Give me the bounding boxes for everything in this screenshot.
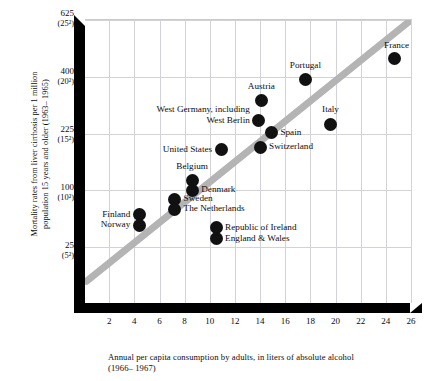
data-point[interactable] [210,232,223,245]
data-point-label: United States [84,144,212,154]
y-axis-bar [74,15,85,307]
y-tick-25-sub: (5²) [28,251,74,262]
y-tick-400-value: 400 [28,66,74,77]
y-tick-625-sub: (25²) [28,19,74,30]
y-tick-25-value: 25 [28,240,74,251]
data-point-label: Italy [322,104,339,114]
x-axis-title-line2: (1966– 1967) [108,363,156,373]
data-point-label: West Germany, includingWest Berlin [84,104,250,125]
data-point[interactable] [324,118,337,131]
data-point[interactable] [133,219,146,232]
y-tick-100: 100 (10²) [28,182,74,203]
y-tick-225-value: 225 [28,124,74,135]
x-tick-24: 24 [376,316,396,326]
x-tick-22: 22 [351,316,371,326]
x-tick-6: 6 [150,316,170,326]
data-point[interactable] [215,143,228,156]
data-point-label: Switzerland [269,141,313,151]
y-tick-225-sub: (15²) [28,135,74,146]
data-point[interactable] [299,73,312,86]
data-point-label: Republic of Ireland [225,222,296,232]
data-point-label: Austria [248,81,275,91]
x-tick-14: 14 [250,316,270,326]
x-tick-2: 2 [99,316,119,326]
y-tick-625: 625 (25²) [28,8,74,29]
x-tick-18: 18 [300,316,320,326]
y-axis-title-line1: Mortality rates from liver cirrhosis per… [30,71,39,236]
data-point[interactable] [252,114,265,127]
x-tick-26: 26 [401,316,421,326]
data-point-label: France [384,40,409,50]
x-axis-bar [74,303,422,313]
x-tick-16: 16 [275,316,295,326]
data-point-label: England & Wales [225,233,289,243]
trend-band-svg [84,20,411,304]
data-point[interactable] [265,126,278,139]
data-point[interactable] [168,203,181,216]
y-tick-100-sub: (10²) [28,193,74,204]
x-tick-10: 10 [200,316,220,326]
data-point-label: Spain [280,127,301,137]
data-point-label: Portugal [290,60,321,70]
plot-area: FrancePortugalAustriaItalyWest Germany, … [84,19,412,304]
data-point-label: Finland [84,209,130,219]
data-point-label: The Netherlands [184,203,245,213]
y-tick-625-value: 625 [28,8,74,19]
x-tick-8: 8 [175,316,195,326]
y-tick-225: 225 (15²) [28,124,74,145]
x-tick-20: 20 [326,316,346,326]
x-axis-title: Annual per capita consumption by adults,… [108,352,428,373]
y-tick-400: 400 (20²) [28,66,74,87]
trend-band [84,20,411,304]
x-axis-title-line1: Annual per capita consumption by adults,… [108,352,354,362]
y-tick-25: 25 (5²) [28,240,74,261]
scatter-chart: Mortality rates from liver cirrhosis per… [0,0,437,381]
data-point-label: Norway [84,219,130,229]
data-point[interactable] [254,141,267,154]
y-tick-400-sub: (20²) [28,77,74,88]
gridline-x-26 [411,20,412,304]
y-axis-title-line2: population 15 years and older (1963– 196… [41,79,50,229]
y-tick-100-value: 100 [28,182,74,193]
x-tick-4: 4 [124,316,144,326]
x-tick-12: 12 [225,316,245,326]
data-point-label: Belgium [176,161,208,171]
